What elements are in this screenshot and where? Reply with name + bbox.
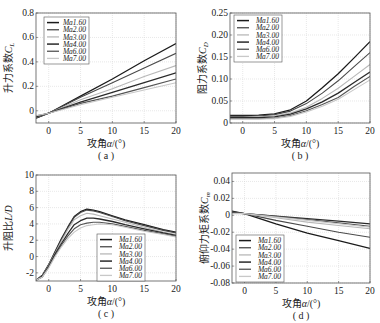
legend: Ma1.60Ma2.00Ma3.00Ma4.00Ma6.00Ma7.00 (234, 15, 282, 62)
x-tick-label: 0 (242, 286, 247, 296)
x-tick-label: 20 (365, 126, 375, 136)
y-tick-label: 0.25 (211, 8, 228, 18)
x-tick-label: 10 (303, 286, 313, 296)
x-tick-label: 5 (78, 284, 83, 294)
x-axis-label: 攻角α/(°) (87, 137, 126, 150)
y-axis-label: 俯仰力矩系数Cm (198, 192, 212, 264)
y-tick-label: -2 (26, 268, 34, 278)
y-tick-label: 2 (29, 235, 34, 245)
x-tick-label: 5 (274, 286, 279, 296)
y-tick-label: 8 (29, 186, 34, 196)
y-axis-label: 升阻比L/D (3, 204, 14, 250)
x-tick-label: 10 (108, 126, 118, 136)
y-tick-label: 4 (29, 219, 34, 229)
legend: Ma1.60Ma2.00Ma3.00Ma4.00Ma6.00Ma7.00 (236, 235, 284, 282)
x-tick-label: 0 (46, 284, 51, 294)
x-axis-label: 攻角α/(°) (281, 137, 320, 150)
y-tick-label: 10 (25, 170, 35, 180)
legend-label: Ma7.00 (62, 54, 86, 63)
panel-label: ( c ) (98, 308, 114, 320)
x-axis-label: 攻角α/(°) (87, 295, 126, 308)
panel-label: ( b ) (292, 150, 309, 162)
y-tick-label: 0.20 (211, 30, 228, 40)
x-tick-label: 0 (240, 126, 245, 136)
y-tick-label: 0 (29, 106, 34, 116)
y-tick-label: -0.04 (210, 244, 230, 254)
x-tick-label: 15 (139, 126, 149, 136)
legend-label: Ma7.00 (257, 272, 281, 281)
figure: 0510152000.20.40.60.8攻角α/(°)( a )升力系数CLM… (0, 0, 380, 323)
legend-label: Ma7.00 (118, 271, 142, 280)
y-tick-label: 0 (223, 118, 228, 128)
y-tick-label: 6 (29, 203, 34, 213)
legend: Ma1.60Ma2.00Ma3.00Ma4.00Ma6.00Ma7.00 (97, 234, 145, 281)
x-tick-label: 15 (334, 286, 344, 296)
x-tick-label: 0 (46, 126, 51, 136)
y-tick-label: 0.02 (213, 193, 230, 203)
x-tick-label: 20 (365, 286, 375, 296)
panel-label: ( a ) (98, 150, 114, 162)
y-tick-label: 0.4 (22, 57, 34, 67)
y-tick-label: 0 (29, 252, 34, 262)
y-tick-label: -0.08 (210, 278, 230, 288)
y-axis-label: 升力系数CL (2, 43, 16, 94)
x-tick-label: 10 (302, 126, 312, 136)
panel-label: ( d ) (293, 310, 310, 322)
y-tick-label: 0.2 (22, 81, 34, 91)
y-tick-label: 0.8 (22, 8, 34, 18)
y-tick-label: 0.10 (211, 74, 228, 84)
x-axis-label: 攻角α/(°) (282, 297, 321, 310)
x-tick-label: 20 (171, 284, 181, 294)
y-tick-label: -0.06 (210, 261, 230, 271)
legend: Ma1.60Ma2.00Ma3.00Ma4.00Ma6.00Ma7.00 (44, 17, 89, 64)
legend-label: Ma7.00 (255, 52, 279, 61)
y-axis-label: 阻力系数CD (196, 42, 210, 94)
x-tick-label: 5 (272, 126, 277, 136)
y-tick-label: -0.02 (210, 227, 230, 237)
y-tick-label: 0.04 (213, 176, 230, 186)
x-tick-label: 10 (108, 284, 118, 294)
y-tick-label: 0.05 (211, 96, 228, 106)
y-tick-label: 0.6 (22, 32, 34, 42)
x-tick-label: 15 (333, 126, 343, 136)
x-tick-label: 20 (171, 126, 181, 136)
y-tick-label: 0.15 (211, 52, 228, 62)
x-tick-label: 5 (78, 126, 83, 136)
y-tick-label: 0 (225, 210, 230, 220)
x-tick-label: 15 (139, 284, 149, 294)
